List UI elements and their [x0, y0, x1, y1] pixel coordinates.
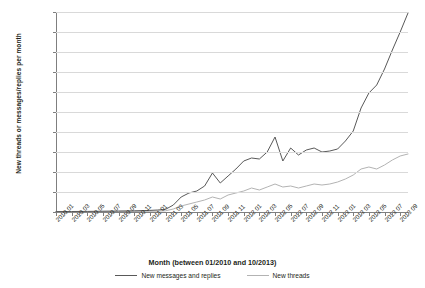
y-axis-tick [53, 172, 56, 173]
legend-swatch-line-icon [115, 275, 137, 276]
plot-area: 0200040006000800010,00012,00014,00016,00… [56, 12, 408, 212]
legend-item[interactable]: New threads [247, 272, 310, 279]
gridline [56, 72, 408, 73]
series-line [56, 154, 408, 212]
y-axis-tick [53, 92, 56, 93]
y-axis-tick [53, 152, 56, 153]
gridline [56, 32, 408, 33]
gridline [56, 112, 408, 113]
legend-label: New threads [273, 272, 310, 279]
gridline [56, 52, 408, 53]
y-axis-tick [53, 52, 56, 53]
line-chart: New threads or messages/replies per mont… [0, 0, 425, 288]
y-axis-tick [53, 32, 56, 33]
legend-item[interactable]: New messages and replies [115, 272, 220, 279]
gridline [56, 172, 408, 173]
chart-legend: New messages and repliesNew threads [0, 272, 425, 279]
y-axis-tick [53, 132, 56, 133]
y-axis-tick [53, 112, 56, 113]
legend-swatch-line-icon [247, 275, 269, 276]
gridline [56, 92, 408, 93]
y-axis-tick [53, 192, 56, 193]
gridline [56, 12, 408, 13]
gridline [56, 152, 408, 153]
y-axis-tick [53, 12, 56, 13]
gridline [56, 192, 408, 193]
y-axis-title: New threads or messages/replies per mont… [15, 9, 22, 199]
x-axis-title: Month (between 01/2010 and 10/2013) [0, 258, 425, 267]
gridline [56, 132, 408, 133]
y-axis-tick [53, 72, 56, 73]
legend-label: New messages and replies [141, 272, 220, 279]
